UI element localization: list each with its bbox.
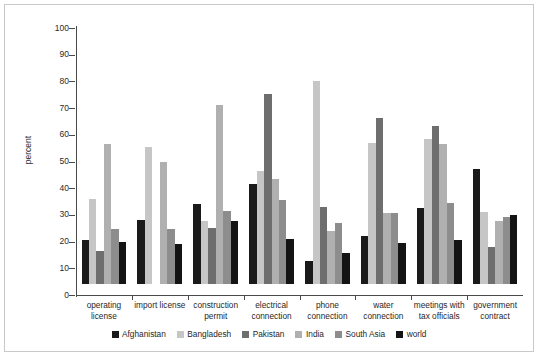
y-axis-tick <box>69 108 75 109</box>
bar <box>439 144 446 284</box>
bar <box>376 118 383 284</box>
bar <box>391 213 398 284</box>
bar <box>272 179 279 284</box>
bar <box>488 247 495 284</box>
bar <box>208 228 215 284</box>
y-axis-tick-label: 30 <box>41 210 69 219</box>
y-axis-tick-label: 40 <box>41 184 69 193</box>
bar <box>432 126 439 284</box>
bar <box>137 220 144 284</box>
y-axis-tick-label: 50 <box>41 157 69 166</box>
y-axis-tick <box>69 55 75 56</box>
bar-group-bars <box>473 17 518 284</box>
y-axis-tick-label: 100 <box>41 24 69 33</box>
bar-group-bars <box>249 17 294 284</box>
bar <box>313 81 320 284</box>
chart-page: 0102030405060708090100 percent Afghanist… <box>0 0 540 357</box>
bar <box>327 231 334 284</box>
y-axis-tick <box>69 81 75 82</box>
bar <box>231 221 238 284</box>
bar-group-bars <box>305 17 350 284</box>
bar <box>160 162 167 284</box>
y-axis-tick-label: 20 <box>41 237 69 246</box>
x-axis-group-separator <box>467 295 468 300</box>
y-axis-tick-label: 70 <box>41 104 69 113</box>
bar <box>368 143 375 285</box>
bar <box>447 203 454 284</box>
y-axis-tick-label: 80 <box>41 77 69 86</box>
bar <box>145 147 152 285</box>
bar <box>223 211 230 284</box>
bar <box>417 208 424 284</box>
bar <box>264 94 271 284</box>
bar <box>167 229 174 284</box>
bar-group-bars <box>137 17 182 284</box>
bar <box>503 217 510 284</box>
x-axis-group-separator <box>411 295 412 300</box>
bar-group-bars <box>361 17 406 284</box>
bar <box>175 244 182 284</box>
bar <box>495 221 502 284</box>
bar <box>320 207 327 284</box>
bar <box>454 240 461 284</box>
y-axis-tick <box>69 188 75 189</box>
x-axis-group-separator <box>188 295 189 300</box>
bar <box>89 199 96 284</box>
bar <box>398 243 405 284</box>
bar <box>335 223 342 284</box>
bar <box>305 261 312 284</box>
y-axis-tick <box>69 242 75 243</box>
y-axis-tick <box>69 215 75 216</box>
y-axis-tick-label: 10 <box>41 264 69 273</box>
bar <box>286 239 293 284</box>
y-axis-tick <box>69 268 75 269</box>
bar <box>257 171 264 284</box>
y-axis-tick <box>69 135 75 136</box>
bar <box>249 184 256 284</box>
y-axis-tick-label: 90 <box>41 50 69 59</box>
bar <box>104 144 111 284</box>
y-axis-tick-label: 60 <box>41 130 69 139</box>
legend-swatch-icon <box>295 331 302 338</box>
bar <box>193 204 200 284</box>
y-axis-labels: 0102030405060708090100 <box>35 5 69 357</box>
y-axis-tick <box>69 162 75 163</box>
legend-swatch-icon <box>242 331 249 338</box>
chart-frame: 0102030405060708090100 percent Afghanist… <box>4 4 534 352</box>
bar-group-bars <box>193 17 238 284</box>
x-axis-category-label: government contract <box>459 300 531 321</box>
y-axis-tick <box>69 295 75 296</box>
y-axis-title: percent <box>23 120 33 180</box>
bar <box>111 229 118 284</box>
bar <box>424 139 431 285</box>
bar <box>473 169 480 284</box>
x-axis-group-separator <box>300 295 301 300</box>
bar <box>510 215 517 284</box>
bar-group-bars <box>82 17 127 284</box>
x-axis-group-separator <box>355 295 356 300</box>
bar <box>383 213 390 284</box>
bar <box>480 212 487 284</box>
bar <box>361 236 368 284</box>
bar <box>119 242 126 284</box>
bar <box>216 105 223 284</box>
y-axis-tick <box>69 28 75 29</box>
bar <box>82 240 89 284</box>
bar <box>342 253 349 285</box>
bar <box>96 251 103 284</box>
bar <box>279 200 286 284</box>
x-axis-group-separator <box>244 295 245 300</box>
x-axis-group-separator <box>132 295 133 300</box>
bar <box>201 221 208 284</box>
y-axis-tick-label: 0 <box>41 291 69 300</box>
bar-group-bars <box>417 17 462 284</box>
